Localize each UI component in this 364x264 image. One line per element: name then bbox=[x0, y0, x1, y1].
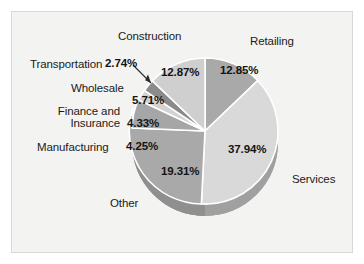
value-manufacturing: 4.25% bbox=[126, 140, 158, 153]
label-construction: Construction bbox=[118, 30, 181, 43]
label-wholesale: Wholesale bbox=[71, 82, 124, 95]
value-wholesale: 5.71% bbox=[132, 94, 164, 107]
label-other: Other bbox=[110, 197, 138, 210]
label-finance-insurance-line1: Finance and bbox=[35, 105, 120, 118]
value-other: 19.31% bbox=[161, 165, 199, 178]
pie-chart-figure: Construction Transportation Wholesale Fi… bbox=[0, 0, 364, 264]
value-services: 37.94% bbox=[228, 143, 266, 156]
value-construction: 12.87% bbox=[161, 66, 199, 79]
label-finance-insurance-line2: Insurance bbox=[35, 117, 120, 130]
value-finance-insurance: 4.33% bbox=[127, 117, 159, 130]
label-manufacturing: Manufacturing bbox=[37, 141, 109, 154]
value-retailing: 12.85% bbox=[220, 64, 258, 77]
pie-chart-canvas bbox=[0, 0, 364, 264]
label-transportation: Transportation bbox=[30, 58, 102, 71]
value-transportation: 2.74% bbox=[105, 57, 137, 70]
label-services: Services bbox=[292, 173, 335, 186]
label-retailing: Retailing bbox=[250, 35, 294, 48]
pie-slices bbox=[129, 58, 278, 204]
